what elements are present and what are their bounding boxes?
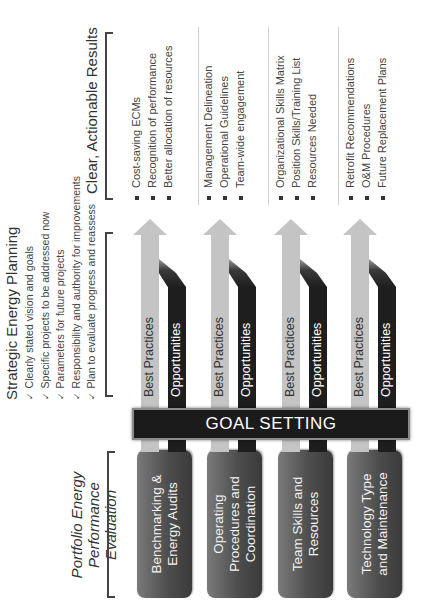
results-group-4: Retrofit Recommendations O&M Procedures … [342,58,390,200]
strategic-item: ✓Responsibility and authority for improv… [69,176,85,400]
result-item: Better allocation of resources [160,46,176,200]
results-separator [268,27,269,205]
result-item-text: Recognition of performance [146,53,158,188]
result-item: Retrofit Recommendations [342,58,358,200]
result-item-text: Management Delineation [202,66,214,188]
result-item: Position Skills/Training List [288,55,304,200]
results-title: Clear, Actionable Results [83,27,100,194]
bullet-icon [349,196,353,200]
results-group-1: Cost-saving ECMs Recognition of performa… [128,46,176,200]
strategic-item: ✓Plan to evaluate progress and reassess [84,176,100,400]
bullet-icon [381,196,385,200]
result-item-text: Resources Needed [306,94,318,188]
result-item-text: Future Replacement Plans [376,58,388,188]
strategic-planning-title: Strategic Energy Planning [3,227,20,400]
strategic-planning-list: ✓Clearly stated vision and goals ✓Specif… [22,176,100,400]
strategic-item: ✓Specific projects to be addressed now [38,176,54,400]
strategic-item-text: Plan to evaluate progress and reassess [85,204,97,388]
check-icon: ✓ [56,392,66,400]
opportunities-label-3: Opportunities [310,323,324,397]
strategic-item-text: Parameters for future projects [54,250,66,389]
bullet-icon [279,196,283,200]
results-group-3: Organizational Skills Matrix Position Sk… [272,55,320,200]
bullet-icon [311,196,315,200]
result-item: O&M Procedures [358,58,374,200]
check-icon: ✓ [41,392,51,400]
bullet-icon [207,196,211,200]
result-item: Future Replacement Plans [374,58,390,200]
best-practices-label-1: Best Practices [142,317,156,397]
check-icon: ✓ [25,392,35,400]
result-item: Management Delineation [200,66,216,200]
opportunities-label-1: Opportunities [169,323,183,397]
result-item: Operational Guidelines [216,66,232,200]
result-item-text: Retrofit Recommendations [344,58,356,188]
check-icon: ✓ [72,392,82,400]
result-item: Organizational Skills Matrix [272,55,288,200]
bullet-icon [151,196,155,200]
result-item: Team-wide engagement [232,66,248,200]
result-item-text: Organizational Skills Matrix [274,55,286,188]
bracket-results [105,32,113,200]
result-item-text: Position Skills/Training List [290,58,302,188]
bracket-strategic [105,232,113,397]
best-practices-label-2: Best Practices [212,317,226,397]
goal-setting-bar: GOAL SETTING [132,408,410,440]
results-group-2: Management Delineation Operational Guide… [200,66,248,200]
best-practices-label-3: Best Practices [283,317,297,397]
bullet-icon [135,196,139,200]
strategic-item-text: Specific projects to be addressed now [39,212,51,389]
check-icon: ✓ [87,392,97,400]
result-item: Resources Needed [304,55,320,200]
result-item-text: Operational Guidelines [218,76,230,188]
strategic-item: ✓Clearly stated vision and goals [22,176,38,400]
result-item-text: Cost-saving ECMs [130,97,142,188]
energy-planning-diagram: Portfolio Energy Performance Evaluation … [0,0,425,612]
strategic-item-text: Responsibility and authority for improve… [70,176,82,388]
results-separator [338,27,339,205]
goal-setting-label: GOAL SETTING [205,414,336,434]
result-item: Cost-saving ECMs [128,46,144,200]
strategic-item: ✓Parameters for future projects [53,176,69,400]
bullet-icon [167,196,171,200]
result-item-text: O&M Procedures [360,104,372,188]
opportunities-label-2: Opportunities [239,323,253,397]
bullet-icon [365,196,369,200]
bullet-icon [295,196,299,200]
result-item-text: Better allocation of resources [162,46,174,188]
opportunities-label-4: Opportunities [379,323,393,397]
bullet-icon [223,196,227,200]
result-item-text: Team-wide engagement [234,71,246,188]
bullet-icon [239,196,243,200]
result-item: Recognition of performance [144,46,160,200]
best-practices-label-4: Best Practices [352,317,366,397]
strategic-item-text: Clearly stated vision and goals [23,246,35,388]
results-separator [198,27,199,205]
